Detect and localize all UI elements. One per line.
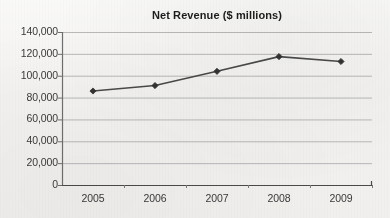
- net-revenue-line-chart: Net Revenue ($ millions) 020,00040,00060…: [0, 0, 390, 218]
- x-tick-label-2008: 2008: [252, 192, 306, 204]
- x-tick-label-2006: 2006: [128, 192, 182, 204]
- x-axis-tick-labels: 20052006200720082009: [0, 0, 390, 218]
- x-tick-label-2009: 2009: [314, 192, 368, 204]
- x-tick-label-2005: 2005: [66, 192, 120, 204]
- x-tick-label-2007: 2007: [190, 192, 244, 204]
